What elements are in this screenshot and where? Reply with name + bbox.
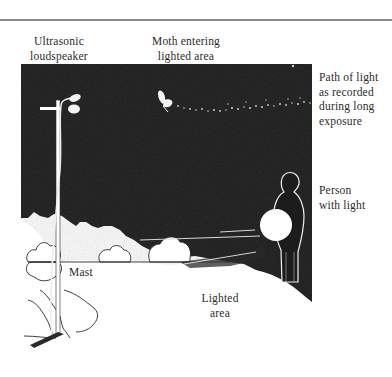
label-path-of-light: Path of light as recorded during long ex… xyxy=(319,70,392,128)
label-mast: Mast xyxy=(69,265,109,280)
label-moth-entering: Moth entering lighted area xyxy=(146,34,226,63)
label-ultrasonic-loudspeaker: Ultrasonic loudspeaker xyxy=(28,34,90,63)
label-person-with-light: Person with light xyxy=(319,183,389,212)
lamp-glow-icon xyxy=(260,209,292,241)
label-lighted-area: Lighted area xyxy=(196,291,244,320)
